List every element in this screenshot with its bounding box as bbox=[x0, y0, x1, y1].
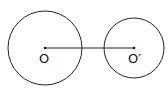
center-point-o bbox=[44, 47, 47, 50]
label-o: O bbox=[39, 51, 49, 66]
center-point-o-prime bbox=[133, 47, 136, 50]
label-o-prime: O′ bbox=[128, 51, 141, 66]
diagram-canvas: O O′ bbox=[0, 0, 168, 89]
